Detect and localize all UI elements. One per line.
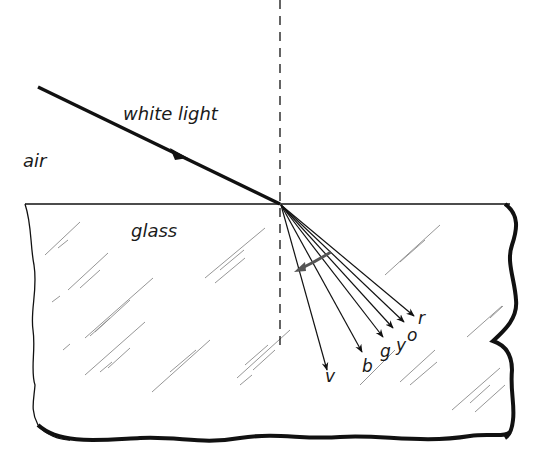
ray-orange <box>281 205 404 322</box>
label-white-light: white light <box>123 105 218 123</box>
label-air: air <box>23 152 46 170</box>
glass-hatching <box>45 222 505 412</box>
refracted-rays <box>281 205 414 370</box>
label-yellow: y <box>396 337 406 354</box>
ray-red <box>281 205 414 316</box>
diagram-drawing <box>0 0 549 463</box>
label-glass: glass <box>131 222 177 240</box>
label-red: r <box>418 310 425 327</box>
arc-arrow-icon <box>294 262 306 272</box>
label-orange: o <box>407 327 417 344</box>
dispersion-diagram: white light air glass v b g y o r <box>0 0 549 463</box>
ray-blue <box>281 205 362 352</box>
incident-arrow-icon <box>170 148 188 160</box>
glass-block <box>25 204 516 441</box>
label-violet: v <box>325 368 335 385</box>
label-blue: b <box>362 358 373 375</box>
label-green: g <box>380 343 391 360</box>
